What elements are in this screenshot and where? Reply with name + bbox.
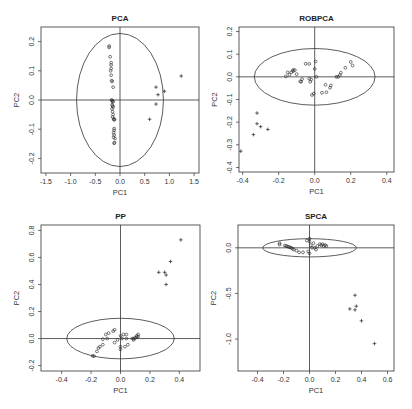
outlier-point [373,342,377,346]
y-tick-label: 0.0 [225,243,232,253]
outlier-point [148,117,152,121]
data-point [113,341,116,344]
panel-pp: PP-0.4-0.20.00.20.4-0.20.00.20.40.60.8PC… [12,212,200,395]
x-tick-label: 0.0 [310,177,320,184]
outlier-point [164,283,168,287]
chart-title: PCA [112,14,129,23]
outlier-point [348,307,352,311]
data-point [312,242,315,245]
y-axis-label: PC2 [209,291,218,306]
data-point [295,73,298,76]
x-tick-label: -0.4 [56,376,68,383]
x-tick-label: -0.2 [85,376,97,383]
data-point [101,343,104,346]
outlier-point [179,238,183,242]
x-tick-label: 0.2 [331,376,341,383]
y-tick-label: 0.8 [28,225,35,235]
x-tick-label: 1.0 [165,178,175,185]
series-outliers [157,238,183,286]
series-regular [91,328,139,357]
x-tick-label: 0.0 [116,376,126,383]
series-regular [284,60,353,96]
y-tick-label: 0.2 [226,27,233,37]
data-point [349,60,352,63]
outlier-point [255,122,259,126]
x-tick-label: 1.5 [189,178,199,185]
y-tick-label: 0.2 [28,307,35,317]
y-tick-label: -1.0 [225,333,232,345]
y-tick-label: 0.0 [28,95,35,105]
y-tick-label: -0.3 [226,139,233,151]
data-point [302,251,305,254]
data-point [109,55,112,58]
outlier-point [252,133,256,137]
outlier-point [239,149,243,153]
chart-title: ROBPCA [299,14,334,23]
outlier-point [156,93,160,97]
y-tick-label: 0.2 [28,37,35,47]
y-tick-label: 0.1 [28,66,35,76]
data-point [325,91,328,94]
x-axis-label: PC1 [113,386,128,395]
x-tick-label: 0.0 [115,178,125,185]
figure: PCA-1.5-1.0-0.50.00.51.01.5-0.2-0.10.00.… [0,0,412,409]
y-tick-label: -0.2 [226,116,233,128]
x-tick-label: 0.2 [346,177,356,184]
y-tick-label: -0.1 [28,123,35,135]
series-outliers [239,111,270,153]
series-regular [108,45,117,145]
x-axis-label: PC1 [309,187,324,196]
panel-spca: SPCA-0.4-0.20.00.20.40.6-1.0-0.50.0PC1PC… [209,212,394,395]
x-tick-label: -0.2 [277,376,289,383]
outlier-point [179,74,183,78]
chart-title: SPCA [305,212,327,221]
outlier-point [360,319,364,323]
x-axis-label: PC1 [309,386,324,395]
data-point [321,91,324,94]
data-point [295,249,298,252]
data-point [284,75,287,78]
data-point [110,74,113,77]
y-tick-label: 0.4 [28,280,35,290]
x-tick-label: 0.2 [145,376,155,383]
panel-pca: PCA-1.5-1.0-0.50.00.51.01.5-0.2-0.10.00.… [12,14,199,197]
outlier-point [255,111,259,115]
outlier-point [353,293,357,297]
y-tick-label: 0.6 [28,252,35,262]
y-tick-label: 0.1 [226,49,233,59]
data-point [344,66,347,69]
data-point [298,251,301,254]
outlier-point [169,260,173,264]
y-tick-label: -0.2 [28,359,35,371]
series-outliers [348,293,376,345]
outlier-point [157,271,161,275]
outlier-point [355,304,359,308]
data-point [124,345,127,348]
x-tick-label: -0.4 [251,376,263,383]
outlier-point [353,308,357,312]
x-tick-label: 0.4 [357,376,367,383]
y-tick-label: -0.2 [28,152,35,164]
x-tick-label: 0.4 [175,376,185,383]
data-point [308,63,311,66]
data-point [122,333,125,336]
panel-robpca: ROBPCA-0.4-0.20.00.20.4-0.4-0.3-0.2-0.10… [210,14,394,196]
data-point [324,83,327,86]
y-axis-label: PC2 [12,291,21,306]
y-axis-label: PC2 [210,92,219,107]
data-point [111,110,114,113]
x-tick-label: -0.4 [237,177,249,184]
data-point [126,343,129,346]
data-point [351,64,354,67]
y-tick-label: 0.0 [28,334,35,344]
x-tick-label: -0.5 [89,178,101,185]
x-tick-label: -0.2 [273,177,285,184]
y-tick-label: -0.1 [226,93,233,105]
data-point [304,62,307,65]
data-point [112,86,115,89]
data-point [125,333,128,336]
x-tick-label: 0.6 [383,376,393,383]
x-tick-label: 0.4 [382,177,392,184]
data-point [301,78,304,81]
y-tick-label: -0.4 [226,161,233,173]
